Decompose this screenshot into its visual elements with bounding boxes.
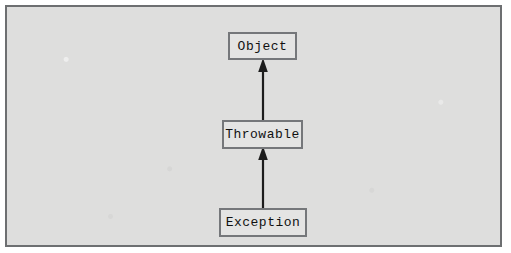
arrow-head — [258, 58, 268, 72]
arrow-glyph — [243, 57, 283, 125]
inheritance-arrow-throwable-to-object — [243, 57, 283, 125]
class-hierarchy-figure: Object Throwable Exception — [0, 0, 511, 253]
class-node-throwable: Throwable — [222, 120, 303, 149]
class-node-exception: Exception — [219, 208, 307, 237]
class-node-object: Object — [228, 32, 297, 60]
class-node-label: Throwable — [225, 127, 300, 142]
class-node-label: Exception — [226, 215, 301, 230]
arrow-glyph — [243, 145, 283, 213]
figure-frame: Object Throwable Exception — [5, 5, 502, 247]
class-node-label: Object — [238, 39, 288, 54]
inheritance-arrow-exception-to-throwable — [243, 145, 283, 213]
